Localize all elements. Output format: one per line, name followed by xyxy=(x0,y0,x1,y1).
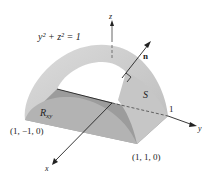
y-axis xyxy=(168,116,193,125)
equation-label: y² + z² = 1 xyxy=(37,31,81,42)
normal-arrow-icon xyxy=(144,41,151,48)
tick-y-1: 1 xyxy=(169,104,174,114)
y-axis-label: y xyxy=(197,124,202,133)
surface-label: S xyxy=(143,89,148,100)
point-front-right: (1, 1, 0) xyxy=(132,152,161,162)
point-front-left: (1, −1, 0) xyxy=(10,126,44,136)
normal-label: n xyxy=(143,51,148,61)
z-axis-label: z xyxy=(108,12,113,21)
x-axis-label: x xyxy=(44,164,49,173)
half-cylinder-diagram: y² + z² = 1 z y x n S 1 Rxy (1, −1, 0) (… xyxy=(0,0,214,181)
y-axis-arrow-icon xyxy=(189,122,197,127)
